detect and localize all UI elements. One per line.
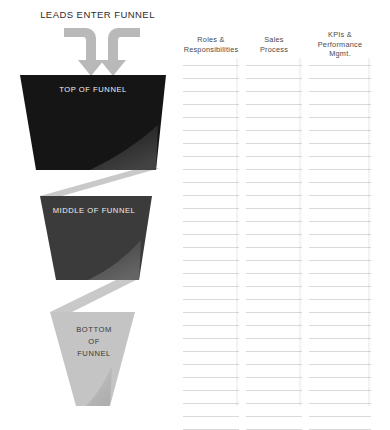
rule-line[interactable]	[246, 170, 302, 183]
rule-line[interactable]	[183, 378, 239, 391]
rule-line[interactable]	[309, 79, 371, 92]
rule-line[interactable]	[309, 339, 371, 352]
notes-columns: Roles & Responsibilities Sales Process K…	[183, 0, 390, 416]
rule-line[interactable]	[183, 222, 239, 235]
rule-line[interactable]	[183, 404, 239, 417]
rule-line[interactable]	[309, 144, 371, 157]
rule-line[interactable]	[309, 365, 371, 378]
funnel-stage-bottom	[50, 312, 135, 406]
rule-line[interactable]	[246, 287, 302, 300]
rule-line[interactable]	[246, 183, 302, 196]
rule-line[interactable]	[246, 261, 302, 274]
rule-line[interactable]	[183, 326, 239, 339]
rule-line[interactable]	[246, 235, 302, 248]
rule-line[interactable]	[246, 157, 302, 170]
rule-line[interactable]	[246, 65, 302, 79]
rule-lines-roles-responsibilities[interactable]	[183, 65, 239, 430]
rule-line[interactable]	[183, 196, 239, 209]
rule-line[interactable]	[246, 92, 302, 105]
rule-line[interactable]	[246, 274, 302, 287]
rule-line[interactable]	[183, 131, 239, 144]
rule-line[interactable]	[309, 287, 371, 300]
rule-line[interactable]	[309, 157, 371, 170]
rule-line[interactable]	[246, 391, 302, 404]
rule-line[interactable]	[309, 131, 371, 144]
leads-arrow-left	[64, 28, 104, 76]
rule-line[interactable]	[183, 417, 239, 430]
rule-line[interactable]	[246, 79, 302, 92]
rule-line[interactable]	[246, 209, 302, 222]
rule-line[interactable]	[183, 92, 239, 105]
rule-line[interactable]	[183, 170, 239, 183]
rule-line[interactable]	[246, 248, 302, 261]
rule-line[interactable]	[183, 261, 239, 274]
rule-line[interactable]	[183, 274, 239, 287]
rule-line[interactable]	[309, 92, 371, 105]
column-divider-2	[299, 58, 303, 406]
rule-line[interactable]	[183, 209, 239, 222]
rule-line[interactable]	[246, 222, 302, 235]
rule-line[interactable]	[183, 144, 239, 157]
rule-line[interactable]	[246, 144, 302, 157]
rule-line[interactable]	[246, 313, 302, 326]
rule-line[interactable]	[309, 222, 371, 235]
rule-line[interactable]	[309, 248, 371, 261]
rule-line[interactable]	[309, 417, 371, 430]
rule-line[interactable]	[309, 404, 371, 417]
rule-line[interactable]	[309, 118, 371, 131]
rule-line[interactable]	[246, 326, 302, 339]
notes-column-sales-process: Sales Process	[246, 0, 302, 416]
rule-line[interactable]	[183, 183, 239, 196]
rule-line[interactable]	[183, 352, 239, 365]
column-header-roles-responsibilities: Roles & Responsibilities	[183, 35, 239, 54]
leads-arrow-right	[100, 28, 140, 76]
rule-line[interactable]	[183, 391, 239, 404]
rule-line[interactable]	[183, 248, 239, 261]
notes-column-kpis-performance-mgmt: KPIs & Performance Mgmt.	[309, 0, 371, 416]
rule-line[interactable]	[246, 352, 302, 365]
rule-line[interactable]	[246, 118, 302, 131]
rule-line[interactable]	[309, 274, 371, 287]
rule-line[interactable]	[246, 404, 302, 417]
rule-line[interactable]	[309, 378, 371, 391]
rule-line[interactable]	[309, 261, 371, 274]
rule-line[interactable]	[309, 391, 371, 404]
rule-line[interactable]	[183, 79, 239, 92]
rule-line[interactable]	[183, 118, 239, 131]
rule-line[interactable]	[246, 131, 302, 144]
rule-line[interactable]	[309, 235, 371, 248]
rule-line[interactable]	[246, 365, 302, 378]
column-header-sales-process: Sales Process	[246, 35, 302, 54]
rule-line[interactable]	[183, 157, 239, 170]
rule-line[interactable]	[309, 326, 371, 339]
rule-line[interactable]	[309, 170, 371, 183]
rule-line[interactable]	[309, 300, 371, 313]
rule-line[interactable]	[246, 339, 302, 352]
rule-line[interactable]	[309, 313, 371, 326]
rule-line[interactable]	[309, 209, 371, 222]
rule-line[interactable]	[309, 352, 371, 365]
rule-line[interactable]	[183, 287, 239, 300]
rule-line[interactable]	[246, 196, 302, 209]
rule-line[interactable]	[183, 313, 239, 326]
rule-line[interactable]	[183, 300, 239, 313]
rule-line[interactable]	[246, 417, 302, 430]
rule-line[interactable]	[246, 300, 302, 313]
rule-line[interactable]	[309, 65, 371, 79]
rule-line[interactable]	[183, 365, 239, 378]
column-divider-3	[368, 58, 372, 406]
rule-line[interactable]	[183, 65, 239, 79]
rule-line[interactable]	[309, 196, 371, 209]
connector-ribbon-bottom	[50, 278, 140, 312]
column-header-kpis-performance-mgmt: KPIs & Performance Mgmt.	[309, 30, 371, 59]
rule-lines-sales-process[interactable]	[246, 65, 302, 430]
funnel-graphic	[0, 0, 195, 416]
rule-line[interactable]	[183, 339, 239, 352]
rule-line[interactable]	[309, 183, 371, 196]
rule-line[interactable]	[246, 105, 302, 118]
rule-line[interactable]	[309, 105, 371, 118]
rule-lines-kpis-performance-mgmt[interactable]	[309, 65, 371, 430]
rule-line[interactable]	[183, 105, 239, 118]
rule-line[interactable]	[183, 235, 239, 248]
rule-line[interactable]	[246, 378, 302, 391]
